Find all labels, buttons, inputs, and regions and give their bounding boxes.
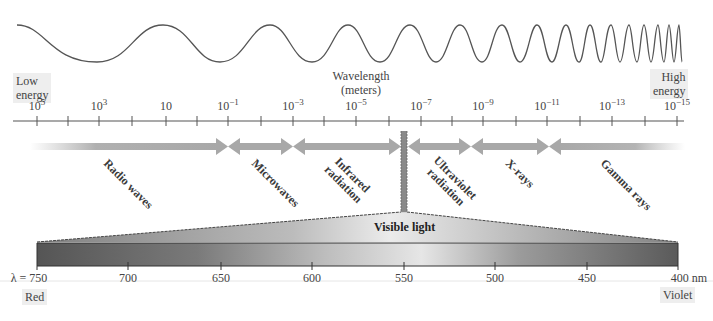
wave-curve: [17, 25, 682, 62]
wavelength-tick-label: 10−3: [282, 99, 304, 114]
visible-fan: [37, 212, 678, 242]
high-energy-label: High energy: [650, 69, 688, 99]
visible-tick-label: 650: [212, 271, 230, 286]
wavelength-tick-label: 105: [29, 99, 46, 114]
high-energy-line1: High: [653, 70, 685, 84]
wavelength-tick-label: 10−7: [410, 99, 432, 114]
visible-tick-label: 400 nm: [671, 271, 707, 286]
red-label: Red: [22, 289, 47, 305]
visible-tick-label: 450: [578, 271, 596, 286]
wavelength-tick-label: 10−11: [534, 99, 560, 114]
visible-light-label: Visible light: [374, 220, 435, 235]
violet-label: Violet: [660, 287, 695, 303]
wavelength-tick-label: 10−5: [345, 99, 367, 114]
visible-column: [401, 131, 407, 213]
low-energy-line1: Low: [16, 74, 48, 88]
axis-title-line1: Wavelength: [326, 69, 396, 83]
region-arrows: [30, 138, 685, 155]
axis-title: Wavelength (meters): [326, 69, 396, 97]
high-energy-line2: energy: [653, 84, 685, 98]
visible-band: [37, 243, 678, 266]
axis-title-line2: (meters): [326, 83, 396, 97]
wavelength-tick-label: 103: [91, 99, 108, 114]
wavelength-tick-label: 10−1: [217, 99, 239, 114]
wavelength-tick-label: 10: [160, 99, 172, 114]
wavelength-tick-label: 10−9: [472, 99, 494, 114]
wavelength-tick-label: 10−15: [664, 99, 690, 114]
visible-tick-label: 700: [119, 271, 137, 286]
wavelength-tick-label: 10−13: [599, 99, 625, 114]
visible-tick-label: 550: [395, 271, 413, 286]
visible-tick-label: λ = 750: [11, 271, 48, 286]
visible-tick-label: 500: [486, 271, 504, 286]
visible-tick-label: 600: [303, 271, 321, 286]
